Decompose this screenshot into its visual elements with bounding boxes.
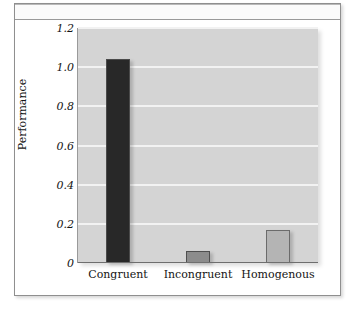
y-axis-tick-labels: 1.21.00.80.60.40.20 bbox=[26, 28, 74, 263]
y-axis-tick-label: 0 bbox=[30, 258, 74, 269]
y-axis-title: Performance bbox=[16, 55, 29, 175]
bars-layer bbox=[78, 28, 318, 263]
x-axis-tick-label: Homogenous bbox=[238, 268, 318, 281]
x-axis-tick-label: Congruent bbox=[78, 268, 158, 281]
x-axis-baseline bbox=[78, 262, 318, 263]
y-axis-tick-label: 1.2 bbox=[30, 23, 74, 34]
y-axis-tick-label: 0.4 bbox=[30, 180, 74, 191]
bar-chart: 1.21.00.80.60.40.20 Performance Congruen… bbox=[0, 0, 349, 309]
y-axis-tick-label: 0.8 bbox=[30, 101, 74, 112]
x-axis-tick-labels: CongruentIncongruentHomogenous bbox=[78, 268, 318, 286]
x-axis-tick-label: Incongruent bbox=[158, 268, 238, 281]
y-axis-tick-label: 0.2 bbox=[30, 219, 74, 230]
bar-homogenous bbox=[266, 230, 290, 263]
plot-area bbox=[78, 28, 318, 263]
y-axis-tick-label: 1.0 bbox=[30, 62, 74, 73]
bar-congruent bbox=[106, 59, 130, 263]
y-axis-tick-label: 0.6 bbox=[30, 141, 74, 152]
